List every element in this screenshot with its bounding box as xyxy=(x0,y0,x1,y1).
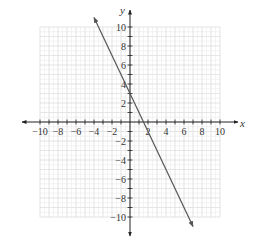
y-tick-label: 10 xyxy=(116,22,126,33)
x-tick-label: 8 xyxy=(200,126,205,137)
x-tick-label: −6 xyxy=(71,126,82,137)
y-axis-label: y xyxy=(119,4,125,16)
y-tick-label: −6 xyxy=(115,174,126,185)
x-tick-label: −10 xyxy=(32,126,48,137)
y-tick-label: −8 xyxy=(115,193,126,204)
y-tick-label: −10 xyxy=(110,212,126,223)
x-tick-label: 10 xyxy=(215,126,225,137)
y-tick-label: 8 xyxy=(121,41,126,52)
y-tick-label: 6 xyxy=(121,60,126,71)
x-tick-label: 6 xyxy=(182,126,187,137)
x-tick-label: 4 xyxy=(164,126,169,137)
y-tick-label: −2 xyxy=(115,136,126,147)
y-tick-label: 2 xyxy=(121,98,126,109)
x-tick-label: −8 xyxy=(53,126,64,137)
axes: xy xyxy=(22,4,245,236)
x-axis-label: x xyxy=(239,117,245,129)
coordinate-plane: xy −10−8−6−4−2246810108642−2−4−6−8−10 xyxy=(0,0,253,250)
y-tick-label: −4 xyxy=(115,155,126,166)
x-tick-label: −4 xyxy=(89,126,100,137)
